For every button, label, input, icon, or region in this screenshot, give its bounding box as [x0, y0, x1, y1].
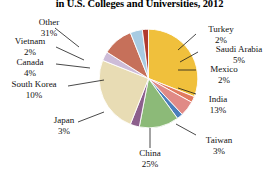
label-mexico-pct: 2%: [200, 75, 248, 86]
label-japan: Japan 3%: [42, 115, 86, 136]
label-saudi-arabia-name: Saudi Arabia: [216, 44, 263, 54]
label-india-name: India: [209, 94, 228, 104]
label-japan-name: Japan: [54, 115, 75, 125]
label-saudi-arabia-pct: 5%: [202, 55, 276, 66]
label-vietnam-pct: 2%: [2, 47, 58, 58]
label-turkey: Turkey 2%: [198, 24, 244, 45]
label-vietnam-name: Vietnam: [15, 36, 45, 46]
label-vietnam: Vietnam 2%: [2, 36, 58, 57]
label-china: China 25%: [124, 148, 176, 169]
label-china-name: China: [139, 148, 161, 158]
label-china-pct: 25%: [124, 159, 176, 170]
chart-title: in U.S. Colleges and Universities, 2012: [0, 0, 279, 9]
chart-canvas: in U.S. Colleges and Universities, 2012 …: [0, 0, 279, 186]
label-canada-pct: 4%: [4, 68, 56, 79]
leader-canada: [56, 64, 90, 68]
label-south-korea-name: South Korea: [11, 79, 56, 89]
label-mexico: Mexico 2%: [200, 64, 248, 85]
label-japan-pct: 3%: [42, 126, 86, 137]
label-taiwan-pct: 3%: [196, 146, 242, 157]
label-other: Other 31%: [18, 17, 80, 38]
pie-svg: [99, 29, 198, 128]
label-india-pct: 13%: [198, 105, 238, 116]
label-turkey-name: Turkey: [208, 24, 234, 34]
label-taiwan-name: Taiwan: [206, 135, 232, 145]
label-mexico-name: Mexico: [210, 64, 238, 74]
label-india: India 13%: [198, 94, 238, 115]
leader-vietnam: [56, 47, 84, 60]
label-canada-name: Canada: [17, 57, 44, 67]
label-turkey-pct: 2%: [198, 35, 244, 46]
label-taiwan: Taiwan 3%: [196, 135, 242, 156]
label-other-name: Other: [39, 17, 60, 27]
pie-chart: [99, 29, 198, 128]
label-south-korea-pct: 10%: [0, 90, 68, 101]
label-saudi-arabia: Saudi Arabia 5%: [202, 44, 276, 65]
label-canada: Canada 4%: [4, 57, 56, 78]
label-south-korea: South Korea 10%: [0, 79, 68, 100]
